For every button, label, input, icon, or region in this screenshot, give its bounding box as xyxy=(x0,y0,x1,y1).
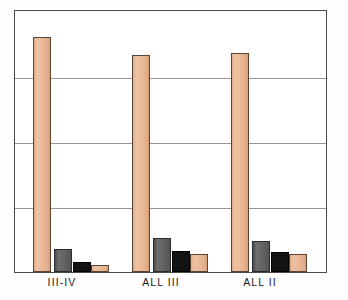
bar-iii-iv-s4 xyxy=(91,265,109,272)
plot-area xyxy=(14,10,327,273)
bar-all-ii-s4 xyxy=(289,254,307,272)
bar-all-ii-s2 xyxy=(252,241,270,272)
bar-all-iii-s3 xyxy=(172,251,190,272)
bar-iii-iv-s3 xyxy=(73,262,91,272)
x-axis-label-2: ALL II xyxy=(210,276,310,288)
category-labels: III-IV ALL III ALL II xyxy=(14,276,327,298)
x-axis-label-0: III-IV xyxy=(12,276,112,288)
bar-iii-iv-s2 xyxy=(54,249,72,272)
bar-all-iii-s2 xyxy=(153,238,171,272)
x-axis-label-1: ALL III xyxy=(111,276,211,288)
bar-all-ii-s1 xyxy=(231,53,249,272)
bars-layer xyxy=(15,11,326,272)
bar-all-ii-s3 xyxy=(271,252,289,272)
bar-all-iii-s4 xyxy=(190,254,208,272)
chart-container: III-IV ALL III ALL II xyxy=(0,0,348,300)
bar-iii-iv-s1 xyxy=(33,37,51,272)
bar-all-iii-s1 xyxy=(132,55,150,272)
